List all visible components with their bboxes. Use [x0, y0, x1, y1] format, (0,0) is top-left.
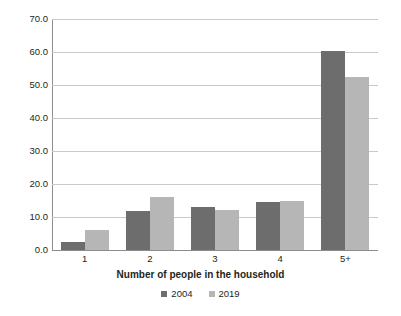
x-axis-tick-label: 4 [248, 252, 313, 268]
x-axis-title: Number of people in the household [0, 268, 401, 282]
legend-swatch-icon [209, 291, 215, 297]
y-axis-tick-label: 50.0 [4, 80, 48, 90]
bar-2004-5+[interactable] [321, 51, 345, 250]
y-axis-tick-label: 70.0 [4, 14, 48, 24]
legend-item-2004[interactable]: 2004 [161, 288, 192, 299]
x-axis-tick-label: 1 [52, 252, 117, 268]
bar-group [117, 19, 182, 250]
y-axis-tick-label: 40.0 [4, 113, 48, 123]
gridline [52, 250, 378, 251]
bar-2019-4[interactable] [280, 201, 304, 250]
bar-group [52, 19, 117, 250]
legend-swatch-icon [161, 291, 167, 297]
y-axis-tick-label: 60.0 [4, 47, 48, 57]
x-axis-tick-label: 5+ [313, 252, 378, 268]
y-axis-tick-label: 20.0 [4, 179, 48, 189]
y-axis-tick-label: 10.0 [4, 212, 48, 222]
y-axis-tick-labels: 70.060.050.040.030.020.010.00.0 [0, 19, 48, 250]
bar-2019-3[interactable] [215, 210, 239, 250]
y-axis-tick-label: 0.0 [4, 245, 48, 255]
bar-2019-2[interactable] [150, 197, 174, 250]
plot-area [52, 19, 378, 250]
x-axis-tick-labels: 12345+ [52, 252, 378, 268]
bar-2004-1[interactable] [61, 242, 85, 250]
bar-2004-3[interactable] [191, 207, 215, 250]
x-axis-tick-label: 2 [117, 252, 182, 268]
legend-item-2019[interactable]: 2019 [209, 288, 240, 299]
bar-group [248, 19, 313, 250]
bar-2004-2[interactable] [126, 211, 150, 250]
bar-2019-5+[interactable] [345, 77, 369, 250]
bar-2004-4[interactable] [256, 202, 280, 250]
bar-2019-1[interactable] [85, 230, 109, 250]
bar-group [182, 19, 247, 250]
y-axis-tick-label: 30.0 [4, 146, 48, 156]
legend-label: 2004 [171, 288, 192, 299]
legend-label: 2019 [219, 288, 240, 299]
bar-chart: 70.060.050.040.030.020.010.00.0 12345+ N… [0, 0, 401, 316]
bar-groups [52, 19, 378, 250]
chart-legend: 20042019 [0, 288, 401, 299]
bar-group [313, 19, 378, 250]
x-axis-tick-label: 3 [182, 252, 247, 268]
